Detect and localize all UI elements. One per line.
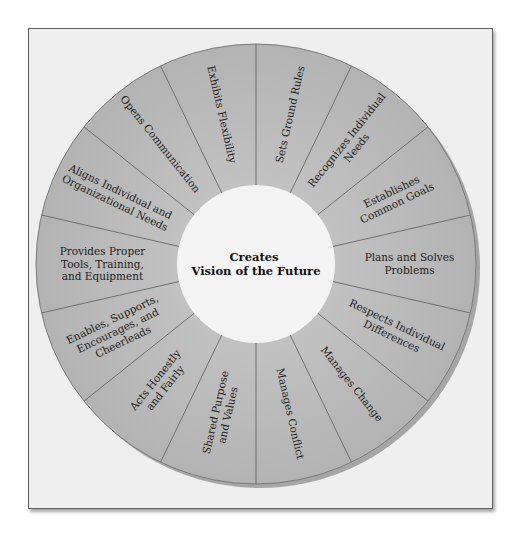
center-label-line-2: Vision of the Future (191, 264, 321, 278)
segment-label-line: Tools, Training, (61, 258, 144, 270)
segment-label: Provides ProperTools, Training,and Equip… (60, 245, 147, 282)
leadership-wheel: Creates Vision of the Future Sets Ground… (0, 0, 520, 533)
segment-label-line: Provides Proper (60, 245, 147, 257)
segment-label-line: and Equipment (62, 270, 144, 282)
segment-label-line: Plans and Solves (365, 251, 455, 263)
segment-label-line: Problems (384, 264, 434, 276)
center-label-line-1: Creates (229, 250, 278, 264)
